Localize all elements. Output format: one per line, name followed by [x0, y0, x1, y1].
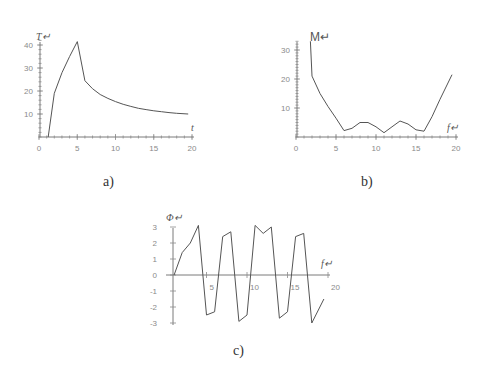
x-tick-label: 15 — [412, 144, 421, 153]
y-axis-label: M↵ — [310, 30, 330, 44]
x-tick-label: 5 — [334, 144, 339, 153]
y-tick-label: 0 — [153, 271, 158, 280]
data-line — [174, 225, 324, 323]
y-tick-label: 10 — [24, 110, 33, 119]
y-tick-label: 20 — [281, 75, 290, 84]
data-line — [48, 42, 188, 137]
x-tick-label: 5 — [210, 283, 215, 292]
y-tick-label: 30 — [281, 46, 290, 55]
x-tick-label: 10 — [372, 144, 381, 153]
data-line — [310, 41, 452, 132]
x-tick-label: 20 — [331, 283, 340, 292]
x-axis-label: f↵ — [447, 122, 459, 133]
x-tick-label: 15 — [291, 283, 300, 292]
y-tick-label: 3 — [153, 223, 158, 232]
y-tick-label: 2 — [153, 239, 158, 248]
x-axis-label: t — [191, 122, 194, 133]
x-tick-label: 20 — [452, 144, 461, 153]
x-tick-label: 20 — [188, 144, 197, 153]
y-tick-label: 30 — [24, 64, 33, 73]
chart-a: 0510152010203040tT↵ — [24, 31, 197, 153]
x-tick-label: 15 — [149, 144, 158, 153]
y-tick-label: 1 — [153, 255, 158, 264]
chart-c: 5101520-3-2-10123f↵Φ↵ — [150, 212, 341, 328]
x-axis-label: f↵ — [321, 258, 333, 269]
y-axis-label: Φ↵ — [166, 212, 183, 223]
y-tick-label: -2 — [150, 303, 158, 312]
x-tick-label: 0 — [37, 144, 42, 153]
y-tick-label: 20 — [24, 87, 33, 96]
y-tick-label: 40 — [24, 41, 33, 50]
caption-a: a) — [103, 174, 114, 190]
x-tick-label: 10 — [250, 283, 259, 292]
chart-b: 05101520102030f↵M↵ — [281, 30, 461, 153]
figure: 0510152010203040tT↵05101520102030f↵M↵510… — [0, 0, 481, 389]
y-tick-label: -3 — [150, 319, 158, 328]
caption-c: c) — [233, 343, 244, 359]
x-tick-label: 10 — [111, 144, 120, 153]
y-tick-label: 10 — [281, 104, 290, 113]
y-axis-label: T↵ — [36, 31, 51, 42]
caption-b: b) — [361, 174, 373, 190]
y-tick-label: -1 — [150, 287, 158, 296]
x-tick-label: 5 — [75, 144, 80, 153]
x-tick-label: 0 — [294, 144, 299, 153]
